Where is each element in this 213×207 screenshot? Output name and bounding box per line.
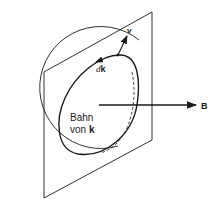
dk-symbol: k (101, 64, 106, 74)
orbit-label-prefix: von (70, 124, 89, 135)
orbit-label-line1: Bahn (70, 112, 94, 124)
velocity-vector (117, 36, 127, 56)
diagram-canvas (0, 0, 213, 207)
velocity-label: v (127, 26, 131, 35)
fermi-sphere-orbit-diagram: Bahn von k dk v B (0, 0, 213, 207)
orbit-label: Bahn von k (70, 112, 94, 136)
field-label: B (201, 101, 208, 111)
orbit-label-symbol: k (89, 124, 95, 135)
orbit-label-line2: von k (70, 124, 94, 136)
dk-label: dk (96, 64, 106, 74)
